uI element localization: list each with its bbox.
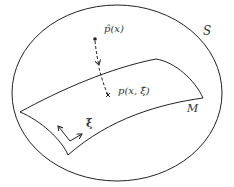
model-point-cross: [106, 93, 110, 97]
diagram-canvas: S M p̂(x) p(x, ξ̂) ξ: [0, 0, 234, 187]
projected-point-label: p̂(x): [104, 24, 124, 34]
projection-arrow: [95, 41, 99, 65]
model-point-label: p(x, ξ̂): [118, 86, 150, 96]
manifold-m-surface: [20, 59, 203, 155]
xi-coordinates-label: ξ: [86, 118, 93, 129]
projected-point-dot: [93, 37, 97, 41]
space-s-label: S: [203, 25, 211, 37]
xi-coordinate-axes: [58, 126, 82, 141]
manifold-m-label: M: [187, 103, 198, 114]
